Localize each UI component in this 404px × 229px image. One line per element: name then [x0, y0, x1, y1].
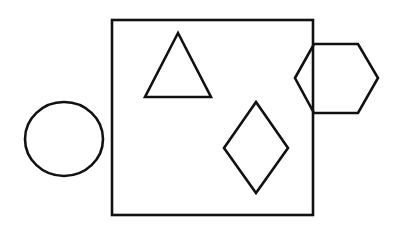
shapes-diagram [0, 0, 404, 229]
hexagon-shape [295, 44, 378, 113]
triangle-shape [145, 33, 211, 97]
circle-shape [25, 102, 103, 176]
square-shape [112, 20, 313, 215]
diamond-shape [224, 102, 288, 193]
